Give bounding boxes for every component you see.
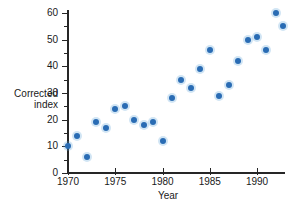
data-point xyxy=(188,85,194,91)
data-point xyxy=(197,66,203,72)
data-point xyxy=(226,82,232,88)
data-point xyxy=(122,103,128,109)
data-point xyxy=(254,34,260,40)
y-axis-title-line-2: index xyxy=(0,99,58,110)
x-axis-title-label: Year xyxy=(158,190,178,201)
data-point xyxy=(178,77,184,83)
x-tick-label-1970: 1970 xyxy=(48,176,88,187)
y-tick-label-10: 10 xyxy=(0,141,58,151)
plot-area xyxy=(68,13,285,173)
y-tick-label-20: 20 xyxy=(0,115,58,125)
x-tick-label-1985: 1985 xyxy=(190,176,230,187)
data-point xyxy=(65,143,71,149)
data-point xyxy=(207,47,213,53)
data-point xyxy=(263,47,269,53)
data-point xyxy=(103,125,109,131)
data-point xyxy=(169,95,175,101)
x-tick-label-1980: 1980 xyxy=(143,176,183,187)
data-point xyxy=(141,122,147,128)
data-point xyxy=(216,93,222,99)
data-point xyxy=(93,119,99,125)
x-tick-label-1975: 1975 xyxy=(95,176,135,187)
y-tick-label-50: 50 xyxy=(0,35,58,45)
x-tick-label-1990: 1990 xyxy=(237,176,277,187)
data-point xyxy=(84,154,90,160)
data-point xyxy=(74,133,80,139)
y-tick-label-40: 40 xyxy=(0,61,58,71)
data-point xyxy=(150,119,156,125)
y-tick-label-60: 60 xyxy=(0,8,58,18)
scatter-chart: Corrected index 0102030405060 1970197519… xyxy=(0,0,288,208)
data-point xyxy=(160,138,166,144)
data-point xyxy=(245,37,251,43)
data-point xyxy=(273,10,279,16)
y-tick-label-30: 30 xyxy=(0,88,58,98)
data-point xyxy=(112,106,118,112)
data-point xyxy=(280,23,286,29)
x-axis-title: Year xyxy=(0,190,288,201)
data-point xyxy=(235,58,241,64)
data-point xyxy=(131,117,137,123)
